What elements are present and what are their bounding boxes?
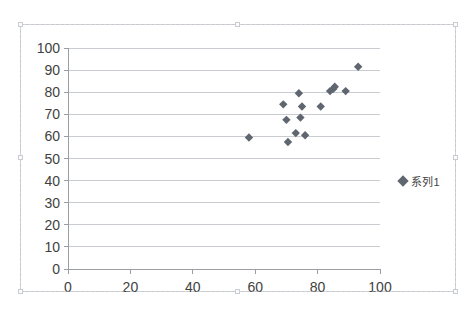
svg-text:50: 50 xyxy=(44,151,60,167)
resize-handle-bottom-center[interactable] xyxy=(235,289,240,294)
svg-text:70: 70 xyxy=(44,106,60,122)
y-axis[interactable] xyxy=(64,48,68,269)
x-axis[interactable] xyxy=(68,269,380,274)
resize-handle-top-right[interactable] xyxy=(453,22,458,27)
resize-handle-top-center[interactable] xyxy=(235,22,240,27)
gridlines xyxy=(68,48,380,269)
svg-text:100: 100 xyxy=(37,40,61,56)
resize-handle-middle-left[interactable] xyxy=(18,155,23,160)
svg-text:80: 80 xyxy=(44,84,60,100)
data-point[interactable] xyxy=(279,100,287,108)
svg-text:90: 90 xyxy=(44,62,60,78)
chart-legend[interactable]: 系列1 xyxy=(399,173,440,189)
legend-series-label: 系列1 xyxy=(411,173,440,189)
data-point[interactable] xyxy=(295,89,303,97)
data-point-series[interactable] xyxy=(245,63,363,147)
data-point[interactable] xyxy=(317,102,325,110)
svg-text:40: 40 xyxy=(44,173,60,189)
plot-area[interactable]: 0102030405060708090100 020406080100 xyxy=(21,25,455,291)
resize-handle-top-left[interactable] xyxy=(18,22,23,27)
data-point[interactable] xyxy=(298,102,306,110)
data-point[interactable] xyxy=(301,131,309,139)
svg-text:10: 10 xyxy=(44,239,60,255)
resize-handle-bottom-left[interactable] xyxy=(18,289,23,294)
resize-handle-middle-right[interactable] xyxy=(453,155,458,160)
y-tick-labels: 0102030405060708090100 xyxy=(37,40,61,277)
data-point[interactable] xyxy=(282,116,290,124)
scatter-plot-svg[interactable]: 0102030405060708090100 020406080100 xyxy=(21,25,457,293)
svg-text:60: 60 xyxy=(44,128,60,144)
svg-text:0: 0 xyxy=(52,261,60,277)
data-point[interactable] xyxy=(284,138,292,146)
svg-text:20: 20 xyxy=(44,217,60,233)
data-point[interactable] xyxy=(245,133,253,141)
data-point[interactable] xyxy=(341,87,349,95)
legend-diamond-marker-icon xyxy=(397,175,408,186)
resize-handle-bottom-right[interactable] xyxy=(453,289,458,294)
svg-text:30: 30 xyxy=(44,195,60,211)
chart-object-frame[interactable]: 0102030405060708090100 020406080100 系列1 xyxy=(20,24,456,292)
